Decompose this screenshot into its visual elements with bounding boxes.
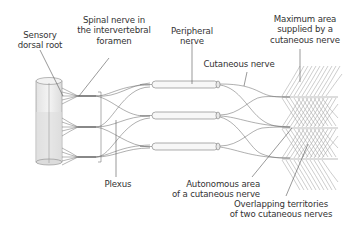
- label-cutaneous-nerve: Cutaneous nerve: [202, 59, 276, 69]
- skin-territories: [282, 66, 342, 190]
- spinal-cord: [36, 78, 62, 166]
- plexus-fibres: [96, 83, 150, 157]
- label-plexus: Plexus: [98, 179, 138, 189]
- peripheral-nerves: [140, 81, 220, 150]
- label-sensory-dorsal-root: Sensory dorsal root: [8, 30, 72, 51]
- label-maximum-area: Maximum area supplied by a cutaneous ner…: [264, 14, 346, 45]
- label-peripheral-nerve: Peripheral nerve: [162, 26, 222, 47]
- territory-lower: [282, 129, 338, 190]
- dorsal-root-bundles: [62, 88, 96, 165]
- label-autonomous-area: Autonomous area of a cutaneous nerve: [148, 179, 260, 200]
- territory-upper: [282, 66, 342, 126]
- cutaneous-nerves: [220, 84, 290, 158]
- label-overlapping-territories: Overlapping territories of two cutaneous…: [220, 199, 342, 220]
- label-spinal-nerve-foramen: Spinal nerve in the intervertebral foram…: [74, 15, 154, 46]
- territory-middle: [282, 98, 338, 157]
